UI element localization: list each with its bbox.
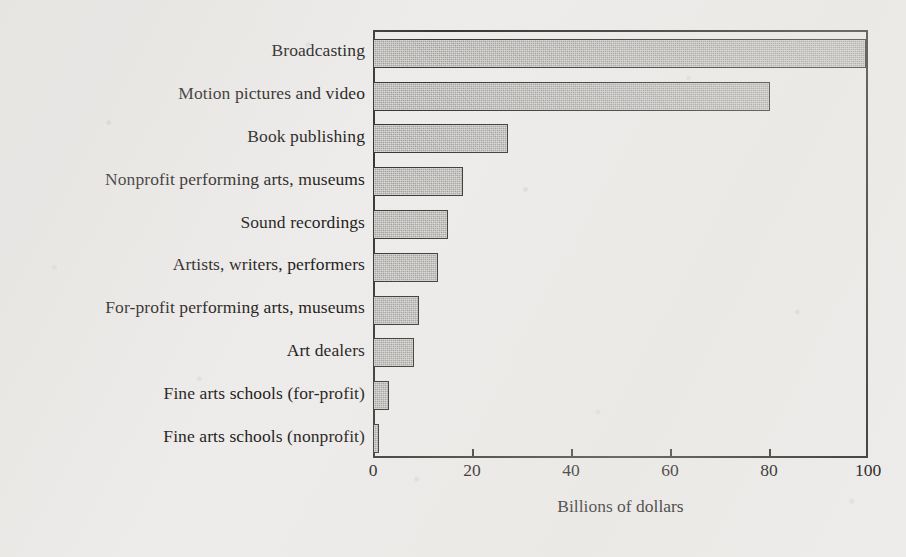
x-tick-mark [769, 449, 771, 458]
bar-row [375, 332, 866, 375]
x-tick-mark [472, 449, 474, 458]
x-tick-mark [571, 449, 573, 458]
x-tick-label: 60 [661, 462, 679, 480]
x-tick-mark [670, 449, 672, 458]
bar-row [375, 203, 866, 246]
bar-book-publishing [374, 124, 508, 153]
category-label: Nonprofit performing arts, museums [5, 171, 365, 189]
category-label: Broadcasting [5, 42, 365, 60]
category-label: For-profit performing arts, museums [5, 299, 365, 317]
bar-for-profit-performing-arts-museums [374, 296, 419, 325]
x-tick-label: 40 [562, 462, 580, 480]
bar-row [375, 75, 866, 118]
bar-row [375, 32, 866, 75]
bar-row [375, 417, 866, 460]
bar-row [375, 289, 866, 332]
bars-layer [375, 32, 866, 456]
x-tick-label: 80 [760, 462, 778, 480]
bar-row [375, 118, 866, 161]
x-axis-title: Billions of dollars [373, 498, 868, 516]
category-label: Fine arts schools (nonprofit) [5, 428, 365, 446]
bar-row [375, 160, 866, 203]
category-label: Motion pictures and video [5, 85, 365, 103]
bar-artists-writers-performers [374, 253, 438, 282]
bar-art-dealers [374, 338, 414, 367]
bar-row [375, 246, 866, 289]
category-label: Artists, writers, performers [5, 256, 365, 274]
category-label: Sound recordings [5, 214, 365, 232]
category-label: Book publishing [5, 128, 365, 146]
category-labels-axis: BroadcastingMotion pictures and videoBoo… [0, 30, 365, 458]
bar-fine-arts-schools-for-profit [374, 381, 389, 410]
horizontal-bar-chart: BroadcastingMotion pictures and videoBoo… [0, 0, 906, 557]
category-label: Fine arts schools (for-profit) [5, 385, 365, 403]
plot-area [373, 30, 868, 458]
bar-nonprofit-performing-arts-museums [374, 167, 463, 196]
category-label: Art dealers [5, 342, 365, 360]
bar-fine-arts-schools-nonprofit [374, 424, 379, 453]
bar-sound-recordings [374, 210, 448, 239]
x-tick-label: 20 [463, 462, 481, 480]
bar-row [375, 374, 866, 417]
bar-broadcasting [374, 39, 866, 68]
x-tick-label: 100 [855, 462, 881, 480]
x-tick-label: 0 [369, 462, 378, 480]
bar-motion-pictures-and-video [374, 82, 770, 111]
